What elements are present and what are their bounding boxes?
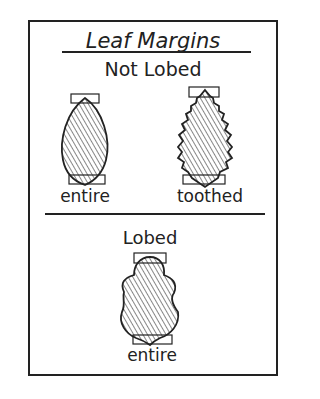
- section-heading-not-lobed: Not Lobed: [28, 58, 278, 80]
- leaf-entire-lobed: [121, 253, 178, 345]
- leaf-toothed-not-lobed: [178, 87, 232, 187]
- diagram-title: Leaf Margins: [28, 29, 278, 53]
- leaf-label-entire: entire: [45, 186, 125, 206]
- section-heading-lobed: Lobed: [110, 227, 190, 248]
- leaf-entire-not-lobed: [62, 94, 108, 185]
- leaf-label-toothed: toothed: [165, 186, 255, 206]
- leaf-label-lobed-entire: entire: [112, 345, 192, 365]
